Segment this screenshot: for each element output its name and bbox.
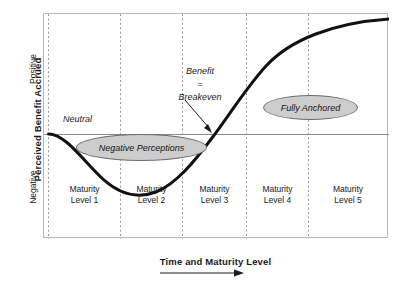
annotation-benefit-line2: = [163,78,237,91]
band-label-5: Maturity Level 5 [308,184,388,205]
band-label-4-line1: Maturity [246,184,309,195]
band-label-2: Maturity Level 2 [120,184,183,205]
figure-chart-perceived-benefit: Perceived Benefit Accrued Positive Negat… [0,0,404,285]
y-axis-tick-positive: Positive [28,42,38,96]
callout-negative-perceptions-label: Negative Perceptions [99,143,185,153]
cropped-caption-strip [0,279,404,285]
band-label-3-line2: Level 3 [182,195,247,206]
band-label-1-line2: Level 1 [48,195,121,206]
plot-graphics [44,14,389,239]
annotation-benefit-breakeven: Benefit = Breakeven [163,65,237,104]
annotation-benefit-line1: Benefit [163,65,237,78]
annotation-benefit-line3: Breakeven [163,91,237,104]
band-label-4-line2: Level 4 [246,195,309,206]
band-label-2-line1: Maturity [120,184,183,195]
band-label-1: Maturity Level 1 [48,184,121,205]
callout-negative-perceptions: Negative Perceptions [76,134,207,161]
y-axis-tick-negative: Negative [28,158,38,216]
band-label-5-line2: Level 5 [308,195,388,206]
x-axis-title: Time and Maturity Level [43,256,388,267]
band-label-2-line2: Level 2 [120,195,183,206]
band-label-5-line1: Maturity [308,184,388,195]
plot-area: Maturity Level 1 Maturity Level 2 Maturi… [43,13,388,238]
annotation-neutral: Neutral [63,114,92,124]
band-label-1-line1: Maturity [48,184,121,195]
band-label-3: Maturity Level 3 [182,184,247,205]
band-label-4: Maturity Level 4 [246,184,309,205]
breakeven-arrow [185,100,212,133]
callout-fully-anchored-label: Fully Anchored [281,103,341,113]
callout-fully-anchored: Fully Anchored [263,95,358,120]
band-dividers [49,14,309,239]
right-arrow-icon [160,268,245,278]
band-label-3-line1: Maturity [182,184,247,195]
